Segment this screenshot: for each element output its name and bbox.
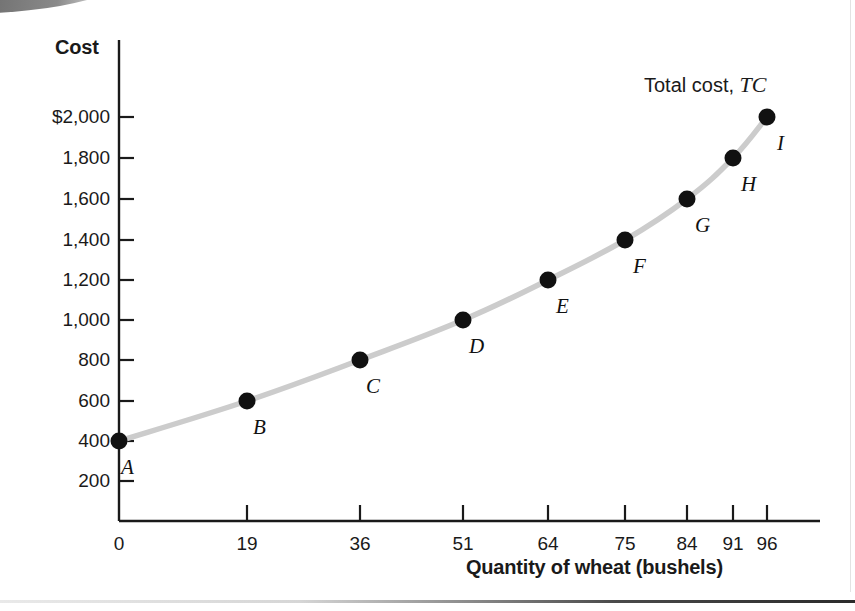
x-axis-tick-label: 75 bbox=[614, 533, 635, 555]
curve-annotation-prefix: Total cost, bbox=[644, 74, 740, 96]
y-axis-tick-label: 1,600 bbox=[0, 188, 110, 210]
y-axis-tick-label: $2,000 bbox=[0, 106, 110, 128]
data-point-marker bbox=[725, 150, 742, 167]
data-point-label-i: I bbox=[777, 131, 784, 156]
data-point-label-f: F bbox=[633, 254, 646, 279]
y-axis-tick-label: 200 bbox=[0, 470, 110, 492]
x-axis-tick-label: 51 bbox=[452, 533, 473, 555]
curve-annotation-label: Total cost, TC bbox=[644, 72, 767, 98]
y-axis-tick-label: 1,800 bbox=[0, 147, 110, 169]
x-axis-tick-label: 84 bbox=[676, 533, 697, 555]
y-axis-ticks bbox=[119, 117, 134, 481]
data-point-marker bbox=[540, 272, 557, 289]
x-axis-tick-label: 96 bbox=[756, 533, 777, 555]
data-point-marker bbox=[455, 312, 472, 329]
x-axis-tick-label: 0 bbox=[114, 533, 125, 555]
data-point-marker bbox=[679, 191, 696, 208]
data-point-label-e: E bbox=[556, 294, 569, 319]
total-cost-curve-figure: Cost Quantity of wheat (bushels) Total c… bbox=[0, 0, 855, 611]
data-point-marker bbox=[239, 393, 256, 410]
y-axis-tick-label: 1,000 bbox=[0, 309, 110, 331]
curve-annotation-symbol: TC bbox=[740, 72, 767, 97]
data-point-label-b: B bbox=[253, 415, 266, 440]
data-point-label-d: D bbox=[469, 334, 484, 359]
y-axis-tick-label: 1,400 bbox=[0, 229, 110, 251]
data-point-label-c: C bbox=[366, 374, 380, 399]
data-point-marker bbox=[352, 352, 369, 369]
y-axis-tick-label: 400 bbox=[0, 430, 110, 452]
axes-group bbox=[119, 40, 820, 521]
data-point-markers bbox=[111, 109, 776, 450]
data-point-marker bbox=[111, 433, 128, 450]
data-point-marker bbox=[759, 109, 776, 126]
data-point-label-h: H bbox=[741, 172, 756, 197]
data-point-marker bbox=[617, 232, 634, 249]
x-axis-tick-label: 91 bbox=[722, 533, 743, 555]
data-point-label-g: G bbox=[695, 213, 710, 238]
x-axis-tick-label: 19 bbox=[236, 533, 257, 555]
x-axis-title: Quantity of wheat (bushels) bbox=[466, 556, 723, 579]
y-axis-title: Cost bbox=[55, 36, 99, 59]
data-point-label-a: A bbox=[121, 455, 134, 480]
y-axis-tick-label: 600 bbox=[0, 390, 110, 412]
y-axis-tick-label: 1,200 bbox=[0, 269, 110, 291]
x-axis-tick-label: 64 bbox=[537, 533, 558, 555]
x-axis-ticks bbox=[247, 505, 767, 521]
x-axis-tick-label: 36 bbox=[349, 533, 370, 555]
total-cost-curve-line bbox=[119, 117, 767, 441]
y-axis-tick-label: 800 bbox=[0, 349, 110, 371]
